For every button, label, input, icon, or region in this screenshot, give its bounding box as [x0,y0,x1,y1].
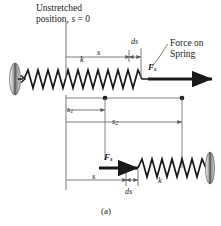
unstretched-line-2-prefix: position, [36,14,71,24]
spring-coil-lower [138,159,210,177]
s-label-upper: s [97,48,100,58]
force-label-line-2: Spring [170,49,195,59]
ds-label-lower: ds [125,188,132,197]
figure-caption: (a) [101,206,111,216]
force-vector-label-upper: Fs [148,62,157,73]
right-wall-lower [206,152,215,184]
dimension-s-lower [66,170,138,186]
ds-label-upper: ds [131,38,138,47]
unstretched-equals-zero: = 0 [75,14,90,24]
s1-subscript: 1 [70,108,73,114]
spring-coil-upper [24,70,148,88]
unstretched-line-1: Unstretched [36,3,82,13]
s1-dimension-label: s1 [67,105,73,115]
force-vector-label-lower: Fs [104,152,113,163]
force-subscript-upper: s [154,65,157,72]
force-on-spring-label: Force on Spring [170,38,204,59]
spring-constant-label-lower: k [158,176,162,186]
s2-subscript: 2 [115,120,118,126]
spring-constant-label-upper: k [80,55,84,65]
lower-spring-assembly [99,152,215,184]
force-label-line-1: Force on [170,38,204,48]
s2-dimension-label: s2 [112,117,118,127]
unstretched-position-label: Unstretched position, s = 0 [36,3,90,24]
force-subscript-lower: s [110,155,113,162]
s-label-lower: s [92,172,95,182]
spring-work-diagram [0,0,221,226]
